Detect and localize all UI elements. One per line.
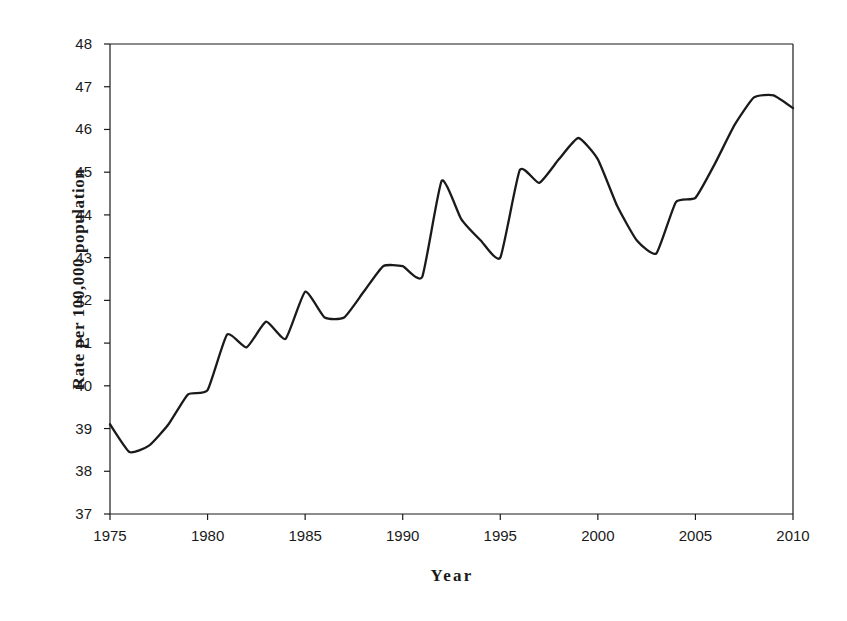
y-tick-label: 37 <box>52 506 92 521</box>
y-tick-label: 46 <box>52 121 92 136</box>
axis-lines <box>110 44 793 514</box>
y-tick-label: 43 <box>52 250 92 265</box>
x-tick-label: 1995 <box>470 528 530 543</box>
x-tick-label: 2005 <box>665 528 725 543</box>
x-tick-label: 2010 <box>763 528 823 543</box>
y-tick-label: 39 <box>52 421 92 436</box>
y-tick-label: 47 <box>52 79 92 94</box>
x-tick-label: 1990 <box>373 528 433 543</box>
x-tick-label: 1975 <box>80 528 140 543</box>
y-tick-label: 42 <box>52 292 92 307</box>
y-tick-label: 41 <box>52 335 92 350</box>
y-tick-label: 44 <box>52 207 92 222</box>
x-axis-label: Year <box>110 566 794 586</box>
data-line <box>110 95 793 453</box>
y-tick-label: 38 <box>52 463 92 478</box>
data-series-group <box>110 95 793 453</box>
tick-marks <box>104 44 793 520</box>
y-tick-label: 45 <box>52 164 92 179</box>
y-tick-label: 48 <box>52 36 92 51</box>
y-axis-label: Rate per 100,000 population <box>62 44 96 514</box>
x-tick-label: 1980 <box>178 528 238 543</box>
x-tick-label: 2000 <box>568 528 628 543</box>
y-tick-label: 40 <box>52 378 92 393</box>
x-tick-label: 1985 <box>275 528 335 543</box>
chart-figure: Rate per 100,000 population Year 3738394… <box>0 0 847 621</box>
